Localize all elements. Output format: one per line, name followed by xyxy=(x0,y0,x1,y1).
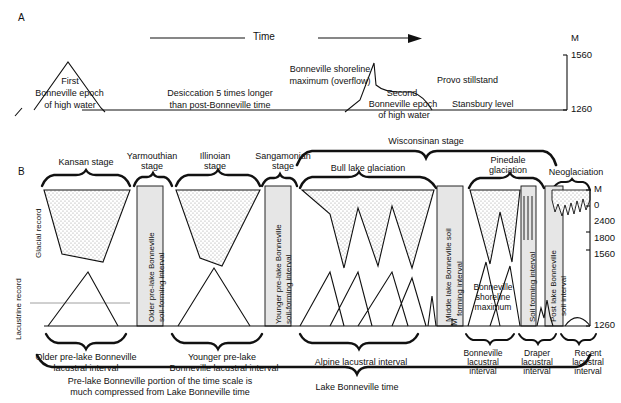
bottom-label-bonneville-3: interval xyxy=(452,366,514,376)
glacial-illinoian xyxy=(176,190,260,266)
lacustrine-kansan xyxy=(48,272,118,326)
band-label-post-lake-l2: soil interval xyxy=(559,276,568,316)
bracket-sangamonian xyxy=(262,174,297,186)
bottom-label-recent-3: interval xyxy=(560,366,616,376)
lacustrine-alpine xyxy=(300,272,426,326)
bracket-alpine-lacustral xyxy=(300,334,418,349)
panel-b-tick-1800: 1800 xyxy=(594,232,615,243)
bracket-yarmouthian xyxy=(134,173,172,186)
bottom-label-draper-3: interval xyxy=(508,366,566,376)
bracket-label-lake-bonneville-time: Lake Bonneville time xyxy=(292,382,422,392)
bracket-draper-lacustral xyxy=(519,334,556,344)
panel-a-elev-1560: 1560 xyxy=(571,49,592,60)
glacial-pinedale xyxy=(470,190,520,264)
glacial-kansan xyxy=(44,190,130,262)
figure-linework xyxy=(0,0,621,403)
panel-a-letter: A xyxy=(18,12,25,23)
bracket-kansan xyxy=(42,170,130,186)
desiccation-line2: than post-Bonneville time xyxy=(140,100,300,110)
bracket-younger-pre-lake-lacustral xyxy=(172,334,262,349)
bracket-bonneville-lacustral xyxy=(466,334,514,344)
time-axis-label: Time xyxy=(253,32,275,42)
bracket-bull-lake xyxy=(300,172,436,188)
glacial-bull-lake xyxy=(302,190,434,268)
lacustrine-recent xyxy=(565,318,590,326)
band-label-soil-forming-interval: Soil forming interval xyxy=(528,252,537,322)
shoreline-max-line2: maximum (overflow) xyxy=(268,76,392,86)
note-line2: much compressed from Lake Bonneville tim… xyxy=(30,387,290,397)
band-label-post-lake-l1: Post lake Bonneville xyxy=(549,250,558,322)
stage-label-bull-lake: Bull lake glaciation xyxy=(300,163,436,173)
row-label-glacial-record: Glacial record xyxy=(34,209,43,258)
panel-b-tick-1260: 1260 xyxy=(594,319,615,330)
stage-label-neoglaciation: Neoglaciation xyxy=(540,167,612,177)
stage-label-yarmouthian-2: stage xyxy=(116,161,188,171)
annotation-bonneville-shoreline-1: Bonneville xyxy=(459,282,527,292)
stage-label-pinedale-2: glaciation xyxy=(470,165,546,175)
bracket-recent-lacustral xyxy=(561,334,596,344)
annotation-bonneville-shoreline-3: maximum xyxy=(459,302,527,312)
provo-stillstand-label: Provo stillstand xyxy=(437,75,498,85)
panel-b-tick-2400: 2400 xyxy=(594,215,615,226)
row-label-lacustrine-record: Lacustrine record xyxy=(14,278,23,340)
band-label-middle-lake-l1: Middle lake Bonneville soil xyxy=(444,228,453,322)
band-label-older-pre-lake-l2: soil-forming interval xyxy=(157,253,166,322)
stage-label-yarmouthian-1: Yarmouthian xyxy=(116,151,188,161)
band-label-older-pre-lake-l1: Older pre-lake Bonneville xyxy=(147,232,156,322)
lacustrine-illinoian xyxy=(178,268,250,326)
band-label-younger-pre-lake-l2: soil-forming interval xyxy=(284,255,293,324)
panel-b-elev-axis xyxy=(586,190,590,326)
time-arrow-head xyxy=(408,34,422,43)
bottom-label-older-pre-lake-2: lacustral interval xyxy=(20,363,152,373)
bottom-label-older-pre-lake-1: Older pre-lake Bonneville xyxy=(20,352,152,362)
second-epoch-line1: Second xyxy=(378,88,426,98)
figure-root: A B Time M 1560 1260 First Bonneville ep… xyxy=(0,0,621,403)
second-epoch-line3: of high water xyxy=(365,110,443,120)
panel-b-unit-m: M xyxy=(594,183,602,194)
stage-label-pinedale-1: Pinedale xyxy=(470,155,546,165)
annotation-bonneville-shoreline-2: shoreline xyxy=(459,292,527,302)
panel-b-tick-1560: 1560 xyxy=(594,248,615,259)
stage-label-illinoian-1: Illinoian xyxy=(186,151,244,161)
shoreline-max-line1: Bonneville shoreline xyxy=(270,64,390,74)
panel-a-elev-1260: 1260 xyxy=(571,103,592,114)
bottom-label-younger-pre-lake-2: Bonneville lacustral interval xyxy=(144,363,304,373)
bracket-illinoian xyxy=(176,170,260,186)
inner-m-label: M xyxy=(450,319,459,327)
lacustrine-spike xyxy=(428,296,436,326)
stage-label-illinoian-2: stage xyxy=(186,161,244,171)
first-epoch-line3: of high water xyxy=(20,100,120,110)
bottom-label-alpine: Alpine lacustral interval xyxy=(296,357,426,367)
stage-label-sangamonian-1: Sangamonian xyxy=(238,151,328,161)
panel-b xyxy=(30,151,596,374)
bracket-label-wisconsinan: Wisconsinan stage xyxy=(356,136,496,146)
bracket-older-pre-lake-lacustral xyxy=(46,334,126,349)
panel-b-tick-0: 0 xyxy=(594,199,599,210)
panel-b-letter: B xyxy=(18,166,25,177)
note-line1: Pre-lake Bonneville portion of the time … xyxy=(30,376,290,386)
band-label-younger-pre-lake-l1: Younger pre-lake Bonneville xyxy=(274,224,283,324)
stansbury-level-label: Stansbury level xyxy=(452,99,514,109)
bottom-label-younger-pre-lake-1: Younger pre-lake xyxy=(152,352,292,362)
first-epoch-line2: Bonneville epoch xyxy=(12,88,127,98)
second-epoch-line2: Bonneville epoch xyxy=(355,99,451,109)
panel-a-unit-m: M xyxy=(571,32,579,43)
first-epoch-line1: First xyxy=(50,76,90,86)
desiccation-line1: Desiccation 5 times longer xyxy=(140,88,300,98)
